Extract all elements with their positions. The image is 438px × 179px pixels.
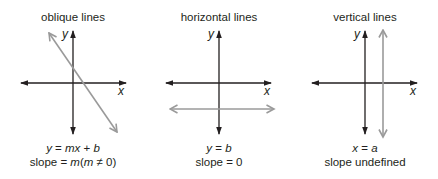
panel-title: vertical lines bbox=[333, 11, 397, 23]
equation: x = a bbox=[351, 142, 377, 154]
panel-horizontal-lines: horizontal lines y x y = b slope = 0 bbox=[166, 11, 274, 168]
panel-vertical-lines: vertical lines y x x = a slope undefined bbox=[312, 11, 417, 168]
panel-title: horizontal lines bbox=[181, 11, 258, 23]
slope-text: slope undefined bbox=[324, 156, 405, 168]
equation: y = b bbox=[205, 142, 232, 154]
x-axis-label: x bbox=[263, 84, 271, 98]
slope-text: slope = m(m ≠ 0) bbox=[30, 156, 117, 168]
x-axis-label: x bbox=[409, 84, 417, 98]
slope-text: slope = 0 bbox=[196, 156, 243, 168]
x-axis-label: x bbox=[117, 84, 125, 98]
y-axis-label: y bbox=[61, 27, 69, 41]
panel-title: oblique lines bbox=[41, 11, 105, 23]
y-axis-label: y bbox=[207, 27, 215, 41]
line-types-diagram: oblique lines y x y = mx + b slope = m(m… bbox=[0, 0, 438, 179]
equation: y = mx + b bbox=[45, 142, 100, 154]
panel-oblique-lines: oblique lines y x y = mx + b slope = m(m… bbox=[21, 11, 126, 168]
y-axis-label: y bbox=[353, 27, 361, 41]
